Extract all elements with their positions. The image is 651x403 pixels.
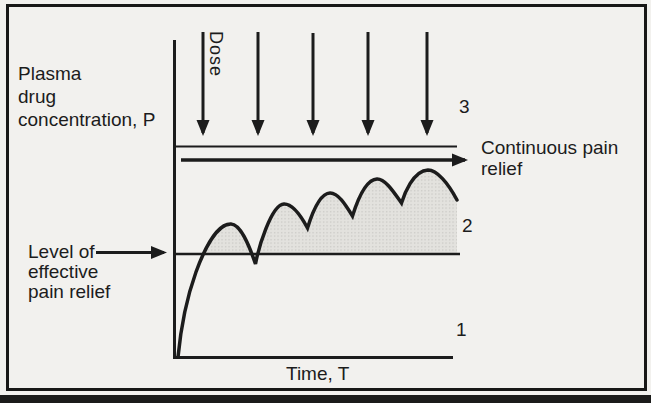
y-axis-label-line2: drug: [18, 85, 155, 108]
dose-label: Dose: [205, 31, 226, 77]
shaded-relief-area: [204, 170, 457, 264]
zone-1-label: 1: [456, 319, 467, 341]
y-axis-label-line1: Plasma: [18, 62, 155, 85]
zone-2-label: 2: [462, 215, 473, 237]
effective-level-label: Level of effective pain relief: [28, 242, 110, 302]
effective-label-line3: pain relief: [28, 282, 110, 302]
figure: Plasma drug concentration, P Dose 3 2 1 …: [0, 0, 651, 403]
zone-3-label: 3: [459, 96, 470, 118]
y-axis-label-line3: concentration, P: [18, 108, 155, 131]
plot-canvas: [0, 0, 651, 403]
continuous-label-line1: Continuous pain: [481, 137, 618, 158]
x-axis-label: Time, T: [286, 363, 349, 385]
scan-edge-band: [0, 395, 651, 403]
y-axis-label: Plasma drug concentration, P: [18, 62, 155, 131]
effective-label-line2: effective: [28, 262, 110, 282]
continuous-pain-relief-label: Continuous pain relief: [481, 137, 618, 179]
effective-label-line1: Level of: [28, 242, 110, 262]
continuous-label-line2: relief: [481, 158, 618, 179]
